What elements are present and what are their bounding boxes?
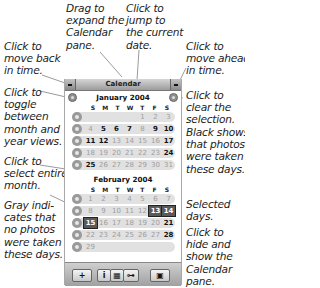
day-cell[interactable]: 13 xyxy=(149,206,162,216)
week-row[interactable]: 15161718192021 xyxy=(72,218,175,228)
select-week-handle[interactable] xyxy=(72,136,82,146)
day-cell[interactable]: 23 xyxy=(97,230,110,240)
day-cell[interactable]: 29 xyxy=(136,160,149,170)
select-week-handle[interactable] xyxy=(72,242,82,252)
week-row[interactable]: 22232425262728 xyxy=(72,230,175,240)
select-week-handle[interactable] xyxy=(72,230,82,240)
day-cell[interactable]: 14 xyxy=(123,136,136,146)
day-cell[interactable]: 9 xyxy=(97,206,110,216)
day-cell[interactable]: 27 xyxy=(149,230,162,240)
minus-icon xyxy=(68,84,72,86)
calendar-title[interactable]: Calendar xyxy=(77,79,169,90)
day-cell[interactable]: 17 xyxy=(162,136,175,146)
week-row[interactable]: 11121314151617 xyxy=(72,136,175,146)
day-cell[interactable]: 8 xyxy=(84,206,97,216)
week-row[interactable]: 123 xyxy=(72,112,175,122)
day-cell[interactable]: 11 xyxy=(84,136,97,146)
empty-day-cell xyxy=(97,242,110,252)
month-title-february[interactable]: February 2004 xyxy=(65,175,181,184)
day-cell[interactable]: 19 xyxy=(136,218,149,228)
day-cell[interactable]: 16 xyxy=(97,218,110,228)
empty-day-cell xyxy=(136,242,149,252)
day-cell[interactable]: 9 xyxy=(149,124,162,134)
select-week-handle[interactable] xyxy=(72,124,82,134)
day-cell[interactable]: 23 xyxy=(149,148,162,158)
day-cell[interactable]: 28 xyxy=(162,230,175,240)
callout-move-ahead: Click to move ahead in time. xyxy=(186,40,245,77)
select-week-handle[interactable] xyxy=(72,218,82,228)
fullscreen-button[interactable]: ▣ xyxy=(150,269,170,282)
day-cell[interactable]: 4 xyxy=(84,124,97,134)
day-cell[interactable]: 25 xyxy=(84,160,97,170)
day-cell[interactable]: 30 xyxy=(149,160,162,170)
week-row[interactable]: 25262728293031 xyxy=(72,160,175,170)
day-cell[interactable]: 1 xyxy=(84,194,97,204)
day-cell[interactable]: 10 xyxy=(162,124,175,134)
info-button[interactable]: i xyxy=(97,269,111,282)
empty-day-cell xyxy=(84,112,97,122)
day-cell[interactable]: 27 xyxy=(110,160,123,170)
select-week-handle[interactable] xyxy=(72,148,82,158)
day-cell[interactable]: 5 xyxy=(97,124,110,134)
day-cell[interactable]: 13 xyxy=(110,136,123,146)
calendar-titlebar[interactable]: Calendar xyxy=(65,79,181,91)
day-cell[interactable]: 3 xyxy=(110,194,123,204)
day-cell[interactable]: 15 xyxy=(136,136,149,146)
day-cell[interactable]: 28 xyxy=(123,160,136,170)
day-cell[interactable]: 26 xyxy=(136,230,149,240)
day-cell[interactable]: 20 xyxy=(110,148,123,158)
month-title-january[interactable]: January 2004 xyxy=(65,93,181,102)
day-cell[interactable]: 21 xyxy=(162,218,175,228)
select-week-handle[interactable] xyxy=(72,160,82,170)
day-cell[interactable]: 22 xyxy=(136,148,149,158)
add-button[interactable]: + xyxy=(72,269,92,282)
day-cell[interactable]: 18 xyxy=(84,148,97,158)
day-cell[interactable]: 26 xyxy=(97,160,110,170)
week-row[interactable]: 1234567 xyxy=(72,194,175,204)
keyword-button[interactable]: ⊶ xyxy=(123,269,139,282)
select-week-handle[interactable] xyxy=(72,112,82,122)
day-cell[interactable]: 16 xyxy=(149,136,162,146)
day-cell[interactable]: 3 xyxy=(162,112,175,122)
calendar-toggle-button[interactable]: ▦ xyxy=(110,269,124,282)
weekday-label: F xyxy=(149,186,161,193)
day-cell[interactable]: 6 xyxy=(110,124,123,134)
day-cell[interactable]: 8 xyxy=(136,124,149,134)
day-cell[interactable]: 4 xyxy=(123,194,136,204)
day-cell[interactable]: 14 xyxy=(162,206,175,216)
week-days: 45678910 xyxy=(84,124,175,134)
day-cell[interactable]: 1 xyxy=(136,112,149,122)
day-cell[interactable]: 7 xyxy=(123,124,136,134)
day-cell[interactable]: 15 xyxy=(84,218,97,228)
select-week-handle[interactable] xyxy=(72,194,82,204)
day-cell[interactable]: 17 xyxy=(110,218,123,228)
day-cell[interactable]: 20 xyxy=(149,218,162,228)
day-cell[interactable]: 24 xyxy=(110,230,123,240)
day-cell[interactable]: 12 xyxy=(136,206,149,216)
day-cell[interactable]: 24 xyxy=(162,148,175,158)
select-week-handle[interactable] xyxy=(72,206,82,216)
day-cell[interactable]: 2 xyxy=(97,194,110,204)
week-days: 18192021222324 xyxy=(84,148,175,158)
day-cell[interactable]: 21 xyxy=(123,148,136,158)
day-cell[interactable]: 6 xyxy=(149,194,162,204)
week-row[interactable]: 45678910 xyxy=(72,124,175,134)
week-row[interactable]: 18192021222324 xyxy=(72,148,175,158)
day-cell[interactable]: 29 xyxy=(84,242,97,252)
previous-button[interactable] xyxy=(65,79,76,90)
weekday-label: S xyxy=(161,104,173,111)
day-cell[interactable]: 25 xyxy=(123,230,136,240)
next-button[interactable] xyxy=(170,79,181,90)
day-cell[interactable]: 31 xyxy=(162,160,175,170)
week-row[interactable]: 891011121314 xyxy=(72,206,175,216)
day-cell[interactable]: 7 xyxy=(162,194,175,204)
day-cell[interactable]: 19 xyxy=(97,148,110,158)
day-cell[interactable]: 2 xyxy=(149,112,162,122)
week-row[interactable]: 29 xyxy=(72,242,175,252)
day-cell[interactable]: 10 xyxy=(110,206,123,216)
day-cell[interactable]: 11 xyxy=(123,206,136,216)
day-cell[interactable]: 18 xyxy=(123,218,136,228)
day-cell[interactable]: 5 xyxy=(136,194,149,204)
day-cell[interactable]: 22 xyxy=(84,230,97,240)
day-cell[interactable]: 12 xyxy=(97,136,110,146)
